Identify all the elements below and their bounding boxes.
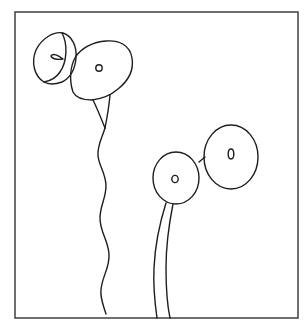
- drawing-canvas: Line sketch of poppy-like flowers in a s…: [0, 0, 308, 331]
- flower-sketch: [0, 0, 308, 331]
- lower-right-flower: [199, 125, 258, 189]
- lower-middle-flower: [153, 152, 199, 204]
- stem-left-edge: [154, 203, 166, 318]
- stem-right-edge: [166, 204, 173, 318]
- wavy-stem: [98, 128, 109, 314]
- upper-center-flower: [71, 41, 133, 128]
- upper-left-flower: [34, 33, 77, 84]
